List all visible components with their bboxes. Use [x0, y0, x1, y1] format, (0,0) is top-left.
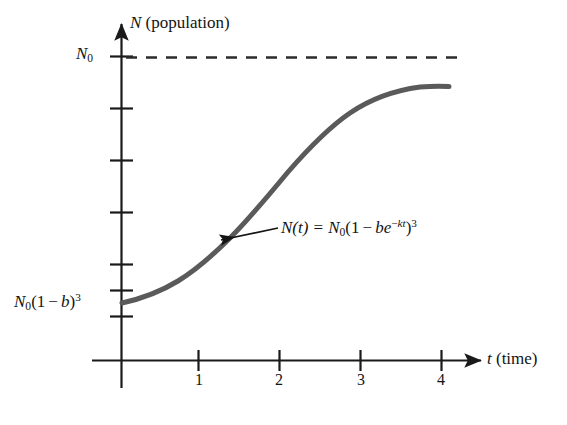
equation-b: b	[375, 218, 384, 237]
y-top-label-symbol: N	[76, 44, 87, 63]
y-intercept-label: N0(1−b)3	[14, 292, 81, 313]
y-intercept-symbol: N	[14, 292, 25, 311]
equation-lhs-arg: (t)	[292, 218, 308, 237]
x-axis-title: t (time)	[487, 350, 538, 367]
equation-minus: −	[359, 218, 375, 237]
y-intercept-exponent: 3	[75, 291, 81, 303]
y-top-label-subscript: 0	[87, 52, 93, 65]
y-axis-title-symbol: N	[130, 13, 141, 32]
y-axis-title: N (population)	[130, 14, 230, 31]
equation-equals: =	[308, 218, 328, 237]
y-axis-title-suffix: (population)	[141, 13, 229, 32]
equation-open-paren: (1	[345, 218, 359, 237]
equation-rhs-symbol: N	[328, 218, 339, 237]
y-intercept-open-paren: (1	[31, 292, 45, 311]
equation-exponent-kt: kt	[398, 217, 406, 229]
equation-callout-arrow	[221, 228, 278, 240]
y-axis-asymptote-label: N0	[76, 45, 93, 65]
y-intercept-minus: −	[45, 292, 61, 311]
x-tick-label: 2	[270, 372, 288, 388]
x-axis-title-suffix: (time)	[492, 349, 538, 368]
x-tick-label: 3	[352, 372, 370, 388]
equation-power: 3	[411, 217, 417, 229]
growth-curve	[122, 86, 449, 303]
curve-equation-label: N(t)=N0(1−be−kt)3	[281, 218, 417, 239]
x-tick-label: 1	[190, 372, 208, 388]
equation-lhs-symbol: N	[281, 218, 292, 237]
population-growth-figure: N (population) t (time) N0 N0(1−b)3 N(t)…	[0, 0, 567, 425]
x-tick-label: 4	[432, 372, 450, 388]
